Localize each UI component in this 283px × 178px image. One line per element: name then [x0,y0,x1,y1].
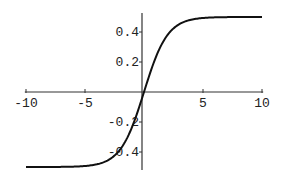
y-tick-label: 0.4 [116,25,140,40]
x-tick-label: -10 [14,96,37,111]
y-tick-label: 0.2 [116,55,139,70]
sigmoid-chart: -10-55100.40.2-0.2-0.4 [0,0,283,178]
x-tick-label: 10 [254,96,270,111]
x-tick-label: -5 [77,96,93,111]
x-tick-label: 5 [199,96,207,111]
